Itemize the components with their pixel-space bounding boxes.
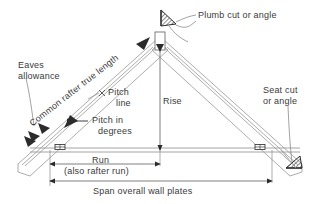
run-note-label: (also rafter run) (64, 166, 129, 177)
span-label: Span overall wall plates (93, 186, 192, 197)
rafter-diagram: Eaves allowance Common rafter true lengt… (0, 0, 321, 204)
eaves-allowance-label: Eaves allowance (18, 60, 60, 81)
plumb-cut-wedge-icon (161, 10, 196, 42)
pitch-degrees-line1: Pitch in (92, 115, 132, 126)
rise-label: Rise (163, 96, 182, 107)
wall-plate-left (55, 145, 65, 150)
cross-tick-icon (99, 90, 105, 96)
plumb-cut-label: Plumb cut or angle (198, 10, 277, 21)
pitch-line-line1: Pitch (108, 87, 131, 98)
seat-cut-label: Seat cut or angle (263, 85, 298, 106)
right-rafter (152, 40, 302, 176)
seat-cut-line2: or angle (263, 96, 298, 107)
pitch-line-leader (88, 93, 99, 99)
run-label: Run (92, 155, 109, 166)
eaves-allowance-line2: allowance (18, 71, 60, 82)
plumb-cut-leader (176, 15, 196, 22)
pitch-line-label: Pitch line (108, 87, 131, 108)
seat-cut-line1: Seat cut (263, 85, 298, 96)
pitch-degrees-label: Pitch in degrees (92, 115, 132, 136)
pitch-line-line2: line (116, 98, 131, 109)
wall-plate-right (255, 145, 265, 150)
pitch-degrees-line2: degrees (98, 126, 132, 137)
eaves-allowance-line1: Eaves (18, 60, 60, 71)
